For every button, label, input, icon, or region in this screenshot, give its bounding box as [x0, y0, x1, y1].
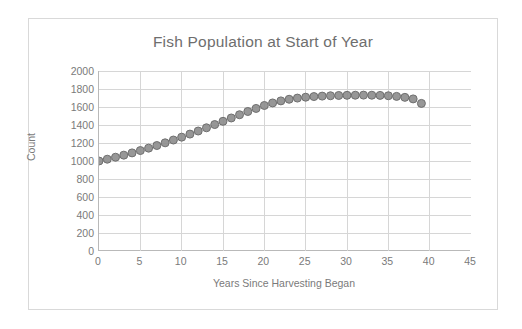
data-point — [161, 139, 169, 147]
data-point — [202, 124, 210, 132]
data-point — [186, 130, 194, 138]
chart-container: Fish Population at Start of Year Count 2… — [28, 18, 498, 310]
y-tick-label: 0 — [88, 245, 94, 257]
plot-area — [98, 71, 470, 251]
y-tick-label: 1400 — [71, 119, 94, 131]
data-point — [236, 111, 244, 119]
y-tick-label: 600 — [76, 191, 94, 203]
data-point — [169, 136, 177, 144]
data-point — [293, 94, 301, 102]
data-point — [211, 121, 219, 129]
data-point — [120, 151, 128, 159]
data-point — [103, 155, 111, 163]
plot-svg — [99, 71, 471, 251]
x-tick-label: 0 — [95, 255, 101, 267]
data-point — [136, 147, 144, 155]
data-point — [99, 157, 103, 165]
data-point — [302, 93, 310, 101]
data-point — [401, 93, 409, 101]
data-point — [318, 92, 326, 100]
data-point — [145, 144, 153, 152]
y-axis-tick-labels: 2000 1800 1600 1400 1200 1000 800 600 40… — [29, 19, 98, 309]
chart-title: Fish Population at Start of Year — [29, 33, 497, 51]
data-point — [260, 101, 268, 109]
data-point — [128, 149, 136, 157]
data-point — [417, 99, 425, 107]
data-point — [335, 91, 343, 99]
data-point — [227, 114, 235, 122]
data-point — [252, 104, 260, 112]
x-tick-label: 45 — [464, 255, 476, 267]
data-series — [99, 91, 425, 165]
x-tick-label: 35 — [381, 255, 393, 267]
y-tick-label: 1000 — [71, 155, 94, 167]
data-point — [326, 92, 334, 100]
data-point — [393, 92, 401, 100]
y-tick-label: 1200 — [71, 137, 94, 149]
data-point — [153, 142, 161, 150]
data-point — [384, 92, 392, 100]
data-point — [351, 91, 359, 99]
x-tick-label: 40 — [423, 255, 435, 267]
x-tick-label: 25 — [299, 255, 311, 267]
data-point — [277, 97, 285, 105]
data-point — [112, 153, 120, 161]
data-point — [343, 91, 351, 99]
data-point — [269, 99, 277, 107]
x-tick-label: 5 — [136, 255, 142, 267]
data-point — [219, 117, 227, 125]
data-point — [310, 93, 318, 101]
data-point — [178, 133, 186, 141]
y-tick-label: 800 — [76, 173, 94, 185]
x-tick-label: 30 — [340, 255, 352, 267]
data-point — [376, 91, 384, 99]
data-point — [285, 95, 293, 103]
x-axis-tick-labels: 0 5 10 15 20 25 30 35 40 45 — [98, 251, 470, 271]
x-tick-label: 10 — [175, 255, 187, 267]
x-tick-label: 15 — [216, 255, 228, 267]
data-point — [194, 127, 202, 135]
y-tick-label: 1800 — [71, 83, 94, 95]
y-tick-label: 200 — [76, 227, 94, 239]
y-tick-label: 2000 — [71, 65, 94, 77]
y-tick-label: 400 — [76, 209, 94, 221]
x-axis-title: Years Since Harvesting Began — [98, 277, 470, 289]
data-point — [360, 91, 368, 99]
x-tick-label: 20 — [257, 255, 269, 267]
data-point — [409, 95, 417, 103]
y-tick-label: 1600 — [71, 101, 94, 113]
data-point — [368, 91, 376, 99]
data-point — [244, 108, 252, 116]
